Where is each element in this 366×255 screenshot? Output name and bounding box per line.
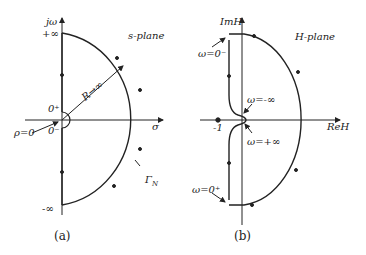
imh-label: ImH (219, 16, 242, 27)
radius-label: R→∞ (79, 79, 105, 104)
w-minus-inf-label: ω=-∞ (247, 94, 275, 105)
w-zero-minus-label: ω=0⁻ (198, 48, 226, 59)
reh-label: ReH (326, 121, 349, 132)
jw-label: jω (44, 16, 57, 27)
h-plane-title: H-plane (294, 31, 335, 42)
contour-arc (62, 33, 131, 205)
nyquist-diagram: jω +∞ s-plane R→∞ 0⁺ 0⁻ ρ=0 σ ΓN -∞ (a) … (0, 0, 366, 255)
gamma-label: ΓN (144, 174, 159, 188)
sigma-label: σ (152, 121, 160, 132)
caption-a: (a) (54, 229, 71, 243)
w-zero-plus-label: ω=0⁺ (192, 184, 220, 195)
zero-minus-label: 0⁻ (48, 125, 60, 136)
minus-inf-label: -∞ (42, 203, 54, 214)
zero-plus-label: 0⁺ (48, 103, 60, 114)
rho-label: ρ=0 (13, 127, 35, 138)
minus-one-label: -1 (213, 122, 223, 133)
plus-inf-label: +∞ (42, 28, 59, 39)
w-plus-inf-label: ω=+∞ (247, 136, 280, 147)
s-plane-title: s-plane (128, 30, 165, 41)
gamma-pointer (135, 160, 140, 166)
s-plane-panel (25, 18, 163, 215)
caption-b: (b) (234, 229, 251, 243)
